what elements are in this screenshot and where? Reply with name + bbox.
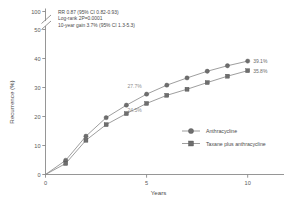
y-tick-label-30: 30 bbox=[34, 85, 40, 91]
y-axis-title: Recurrence (%) bbox=[8, 80, 15, 123]
mid-value-label-2: 24.5% bbox=[127, 107, 142, 113]
x-tick-label-5: 5 bbox=[145, 180, 148, 186]
series-line-1 bbox=[46, 61, 248, 174]
legend-label-1: Anthracycline bbox=[206, 128, 237, 134]
legend-label-2: Taxane plus anthracycline bbox=[206, 141, 266, 147]
y-tick-label-0: 0 bbox=[37, 172, 40, 178]
end-value-label-2: 35.8% bbox=[253, 68, 268, 74]
data-point-1-8 bbox=[205, 69, 209, 73]
data-point-1-10 bbox=[246, 59, 250, 63]
y-tick-label-50: 50 bbox=[34, 27, 40, 33]
data-point-2-6 bbox=[165, 93, 169, 97]
x-tick-label-0: 0 bbox=[44, 180, 47, 186]
y-tick-label-40: 40 bbox=[34, 56, 40, 62]
x-tick-label-10: 10 bbox=[245, 180, 251, 186]
chart-canvas: 010203040501000510YearsRecurrence (%)RR … bbox=[0, 0, 294, 209]
data-point-1-5 bbox=[144, 92, 148, 96]
series-line-2 bbox=[46, 71, 248, 175]
x-axis-title: Years bbox=[151, 189, 167, 196]
data-point-2-10 bbox=[246, 69, 250, 73]
data-point-2-3 bbox=[104, 123, 108, 127]
y-tick-label-100: 100 bbox=[31, 9, 40, 15]
y-tick-label-10: 10 bbox=[34, 143, 40, 149]
annotation-line-2: Log-rank 2P=0.0001 bbox=[58, 16, 103, 21]
annotation-line-1: RR 0.87 (95% CI 0.82-0.93) bbox=[58, 10, 119, 15]
legend-marker-circle bbox=[188, 128, 193, 133]
annotation-line-3: 10-year gain 3.7% (95% CI 1.3-5.3) bbox=[58, 23, 135, 28]
legend-marker-square bbox=[189, 141, 194, 146]
data-point-2-7 bbox=[185, 87, 189, 91]
data-point-2-9 bbox=[225, 74, 229, 78]
data-point-1-2 bbox=[84, 134, 88, 138]
data-point-2-8 bbox=[205, 81, 209, 85]
mid-value-label-1: 27.7% bbox=[127, 83, 142, 89]
recurrence-chart: 010203040501000510YearsRecurrence (%)RR … bbox=[0, 0, 294, 209]
data-point-2-2 bbox=[84, 138, 88, 142]
data-point-1-3 bbox=[104, 116, 108, 120]
data-point-1-9 bbox=[225, 64, 229, 68]
end-value-label-1: 39.1% bbox=[253, 58, 268, 64]
y-tick-label-20: 20 bbox=[34, 114, 40, 120]
data-point-2-1 bbox=[64, 161, 68, 165]
data-point-1-7 bbox=[185, 76, 189, 80]
data-point-1-6 bbox=[165, 83, 169, 87]
data-point-2-5 bbox=[145, 101, 149, 105]
